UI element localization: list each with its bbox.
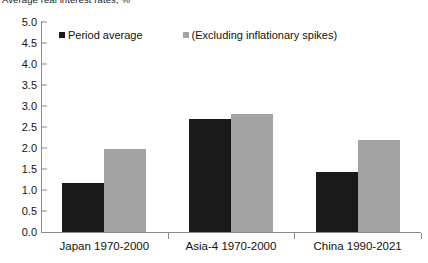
legend-label-period-average: Period average [68, 29, 143, 41]
x-axis-separator-tick [421, 233, 422, 239]
y-axis-tick-label: 3.0 [0, 100, 37, 112]
bar-excluding-spikes[interactable] [104, 149, 146, 232]
y-axis-tick-label: 1.0 [0, 184, 37, 196]
bar-period-average[interactable] [189, 119, 231, 232]
chart-title: Average real interest rates, % [2, 0, 130, 5]
chart-legend: Period average (Excluding inflationary s… [59, 29, 337, 41]
x-axis-category-label: China 1990-2021 [314, 240, 402, 252]
y-axis-tick-label: 4.5 [0, 37, 37, 49]
bar-excluding-spikes[interactable] [231, 114, 273, 232]
y-axis-tick-label: 3.5 [0, 79, 37, 91]
y-axis-tick-label: 5.0 [0, 16, 37, 28]
y-axis-tick-label: 1.5 [0, 163, 37, 175]
bar-period-average[interactable] [62, 183, 104, 232]
x-axis-line [41, 232, 421, 233]
legend-swatch-icon-light [183, 32, 189, 38]
y-axis-tick-mark [42, 43, 47, 44]
chart-container: Average real interest rates, % 0.00.51.0… [0, 0, 428, 263]
y-axis-tick-mark [42, 169, 47, 170]
x-axis-separator-tick [168, 233, 169, 239]
y-axis-tick-label: 4.0 [0, 58, 37, 70]
legend-item-period-average[interactable]: Period average [59, 29, 143, 41]
legend-item-excluding-spikes[interactable]: (Excluding inflationary spikes) [183, 29, 338, 41]
bar-excluding-spikes[interactable] [358, 140, 400, 232]
y-axis-tick-label: 2.0 [0, 142, 37, 154]
y-axis-tick-mark [42, 22, 47, 23]
x-axis-category-label: Asia-4 1970-2000 [186, 240, 277, 252]
y-axis-tick-mark [42, 64, 47, 65]
legend-label-excluding-spikes: (Excluding inflationary spikes) [192, 29, 338, 41]
y-axis-tick-label: 2.5 [0, 121, 37, 133]
y-axis-tick-mark [42, 106, 47, 107]
y-axis-tick-mark [42, 190, 47, 191]
y-axis-tick-mark [42, 127, 47, 128]
y-axis-tick-label: 0.0 [0, 226, 37, 238]
x-axis-category-label: Japan 1970-2000 [60, 240, 150, 252]
x-axis-separator-tick [294, 233, 295, 239]
y-axis-tick-mark [42, 211, 47, 212]
y-axis-tick-label: 0.5 [0, 205, 37, 217]
y-axis-tick-mark [42, 85, 47, 86]
legend-swatch-icon-dark [59, 32, 65, 38]
y-axis-tick-mark [42, 148, 47, 149]
bar-period-average[interactable] [316, 172, 358, 232]
